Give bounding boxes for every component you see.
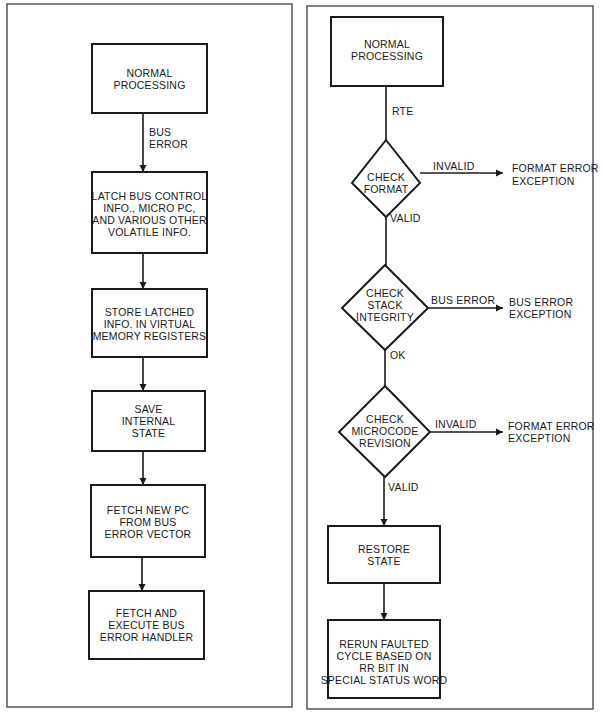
right-node-rerun-cycle: RERUN FAULTED CYCLE BASED ON RR BIT IN S… bbox=[321, 620, 448, 698]
left-node-store-latched: STORE LATCHED INFO. IN VIRTUAL MEMORY RE… bbox=[92, 289, 207, 357]
edge-label: INVALID bbox=[433, 160, 475, 172]
edge-stack-bus-error: BUS ERROR BUS ERROR EXCEPTION bbox=[428, 294, 573, 320]
left-node-latch-info: LATCH BUS CONTROL INFO., MICRO PC, AND V… bbox=[92, 172, 208, 253]
node-label: VOLATILE INFO. bbox=[108, 226, 191, 238]
right-panel: NORMAL PROCESSING RTE CHECK FORMAT INVAL… bbox=[307, 6, 599, 709]
right-node-restore-state: RESTORE STATE bbox=[328, 526, 440, 583]
edge-label: OK bbox=[390, 349, 406, 361]
edge-format-valid: VALID bbox=[386, 212, 421, 265]
node-label: INFO., MICRO PC, bbox=[103, 202, 195, 214]
right-panel-border bbox=[307, 6, 593, 709]
exception-format-error-2: FORMAT ERROR bbox=[508, 420, 595, 432]
edge-label: RTE bbox=[392, 105, 413, 117]
node-label: PROCESSING bbox=[113, 79, 185, 91]
flowchart-canvas: NORMAL PROCESSING BUS ERROR LATCH BUS CO… bbox=[0, 0, 604, 721]
decision-check-format: CHECK FORMAT bbox=[352, 140, 420, 217]
node-label: MEMORY REGISTERS bbox=[93, 330, 207, 342]
edge-label: BUS ERROR bbox=[431, 294, 495, 306]
right-node-normal-processing: NORMAL PROCESSING bbox=[331, 17, 443, 86]
edge-label: BUS bbox=[149, 126, 171, 138]
node-label: FROM BUS bbox=[119, 516, 176, 528]
edge-format-invalid: INVALID FORMAT ERROR EXCEPTION bbox=[420, 160, 599, 187]
exception-format-error-1: EXCEPTION bbox=[512, 175, 574, 187]
node-label: CYCLE BASED ON bbox=[337, 650, 432, 662]
node-label: INTERNAL bbox=[122, 415, 176, 427]
node-label: STATE bbox=[367, 555, 400, 567]
node-label: LATCH BUS CONTROL bbox=[92, 190, 208, 202]
node-label: STATE bbox=[132, 427, 165, 439]
node-label: RERUN FAULTED bbox=[339, 638, 429, 650]
node-label: STACK bbox=[367, 299, 402, 311]
exception-format-error-1: FORMAT ERROR bbox=[512, 162, 599, 174]
exception-bus-error: EXCEPTION bbox=[509, 308, 571, 320]
left-node-fetch-new-pc: FETCH NEW PC FROM BUS ERROR VECTOR bbox=[91, 485, 205, 557]
edge-stack-ok: OK bbox=[385, 349, 406, 386]
left-node-normal-processing: NORMAL PROCESSING bbox=[92, 44, 207, 113]
node-label: INFO. IN VIRTUAL bbox=[104, 318, 196, 330]
node-label: PROCESSING bbox=[351, 50, 423, 62]
edge-label: VALID bbox=[388, 481, 419, 493]
node-label: NORMAL bbox=[126, 67, 172, 79]
node-label: CHECK bbox=[366, 413, 404, 425]
node-label: EXECUTE BUS bbox=[108, 619, 184, 631]
left-node-execute-handler: FETCH AND EXECUTE BUS ERROR HANDLER bbox=[89, 591, 204, 659]
left-edge-bus-error: BUS ERROR bbox=[143, 113, 188, 172]
node-label: FETCH NEW PC bbox=[107, 504, 190, 516]
decision-check-microcode: CHECK MICROCODE REVISION bbox=[339, 386, 430, 477]
node-label: REVISION bbox=[359, 437, 411, 449]
node-label: ERROR HANDLER bbox=[100, 631, 194, 643]
decision-check-stack: CHECK STACK INTEGRITY bbox=[342, 265, 428, 350]
edge-label: ERROR bbox=[149, 138, 188, 150]
left-node-save-state: SAVE INTERNAL STATE bbox=[92, 391, 205, 451]
node-label: ERROR VECTOR bbox=[105, 528, 192, 540]
node-label: CHECK bbox=[367, 171, 405, 183]
node-label: SAVE bbox=[134, 403, 162, 415]
edge-microcode-valid: VALID bbox=[384, 477, 419, 526]
node-label: SPECIAL STATUS WORD bbox=[321, 674, 448, 686]
node-label: FORMAT bbox=[364, 183, 409, 195]
exception-format-error-2: EXCEPTION bbox=[508, 432, 570, 444]
edge-label: INVALID bbox=[435, 418, 477, 430]
edge-microcode-invalid: INVALID FORMAT ERROR EXCEPTION bbox=[430, 418, 595, 444]
node-label: RR BIT IN bbox=[359, 662, 408, 674]
edge-label: VALID bbox=[390, 212, 421, 224]
node-label: FETCH AND bbox=[116, 607, 178, 619]
node-label: CHECK bbox=[366, 287, 404, 299]
node-label: RESTORE bbox=[358, 543, 410, 555]
node-label: MICROCODE bbox=[351, 425, 418, 437]
exception-bus-error: BUS ERROR bbox=[509, 296, 573, 308]
left-panel: NORMAL PROCESSING BUS ERROR LATCH BUS CO… bbox=[7, 4, 292, 707]
node-label: STORE LATCHED bbox=[105, 306, 195, 318]
node-label: AND VARIOUS OTHER bbox=[92, 214, 207, 226]
node-label: NORMAL bbox=[364, 38, 410, 50]
right-edge-rte: RTE bbox=[386, 86, 413, 140]
node-label: INTEGRITY bbox=[356, 311, 414, 323]
